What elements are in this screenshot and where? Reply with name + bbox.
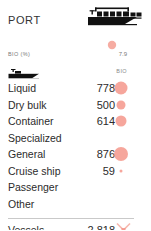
- row-bubble: [115, 146, 143, 163]
- bubble-marker: [114, 147, 128, 161]
- table-row[interactable]: Passenger: [8, 179, 143, 196]
- bubble-marker: [120, 169, 123, 172]
- total-label: Vessels: [8, 224, 75, 230]
- total-value: 2,818: [75, 224, 115, 230]
- cargo-ship-icon: [85, 6, 143, 28]
- row-value: 876: [75, 148, 115, 160]
- row-label: Container: [8, 115, 75, 127]
- bio-percent-row: BIO (%) 7.9: [8, 46, 143, 62]
- row-label: Dry bulk: [8, 99, 75, 111]
- row-value: 59: [75, 165, 115, 177]
- table-row[interactable]: Container 614: [8, 113, 143, 130]
- bio-percent-value: 7.9: [99, 51, 143, 57]
- row-bubble: [115, 196, 143, 213]
- row-label: Liquid: [8, 82, 75, 94]
- row-value: 500: [75, 99, 115, 111]
- row-label: General: [8, 148, 75, 160]
- row-bubble: [115, 179, 143, 196]
- row-bubble: [115, 80, 143, 97]
- row-value: 614: [75, 115, 115, 127]
- table-row[interactable]: Liquid 778: [8, 80, 143, 97]
- row-bubble: [115, 113, 143, 130]
- table-row[interactable]: General 876: [8, 146, 143, 163]
- page-title: PORT: [8, 14, 41, 26]
- row-label: Specialized: [8, 132, 75, 144]
- table-row[interactable]: Dry bulk 500: [8, 97, 143, 114]
- row-label: Passenger: [8, 181, 75, 193]
- bubble-marker: [115, 82, 128, 95]
- bio-percent-label: BIO (%): [8, 51, 99, 57]
- bubble-marker: [116, 116, 127, 127]
- row-value: 778: [75, 82, 115, 94]
- table-row[interactable]: Cruise ship 59: [8, 163, 143, 180]
- table-row[interactable]: Other: [8, 196, 143, 213]
- table-row[interactable]: Specialized: [8, 130, 143, 147]
- cross-marker-icon: [115, 222, 132, 231]
- row-bubble: [115, 163, 143, 180]
- small-ship-icon: [8, 66, 41, 77]
- row-label: Other: [8, 198, 75, 210]
- total-marker: [115, 219, 143, 230]
- port-panel: PORT: [0, 0, 151, 230]
- panel-header: PORT: [8, 0, 143, 46]
- row-bubble: [115, 130, 143, 147]
- bubble-marker: [117, 100, 126, 109]
- row-bubble: [115, 97, 143, 114]
- unit-label: BIO: [99, 68, 143, 74]
- data-rows: Liquid 778 Dry bulk 500 Container 614 Sp…: [8, 80, 143, 212]
- column-header-row: BIO: [8, 62, 143, 80]
- row-label: Cruise ship: [8, 165, 75, 177]
- totals-row: Vessels 2,818: [8, 219, 143, 230]
